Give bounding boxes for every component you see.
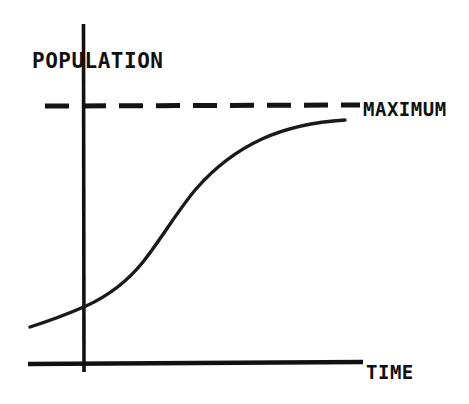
maximum-reference-line (45, 105, 360, 106)
population-curve (30, 120, 345, 327)
x-axis-line (28, 362, 363, 364)
logistic-growth-figure: POPULATION MAXIMUM TIME (0, 0, 469, 404)
maximum-label: MAXIMUM (363, 98, 447, 120)
chart-canvas: POPULATION MAXIMUM TIME (0, 0, 469, 404)
maximum-dashed-stroke (45, 105, 360, 106)
x-axis-label: TIME (366, 361, 414, 383)
y-axis-line (84, 24, 85, 372)
y-axis-label: POPULATION (32, 49, 163, 73)
